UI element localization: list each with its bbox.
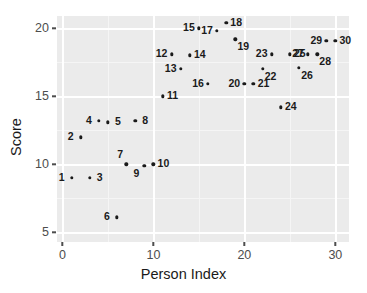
- gridline-minor-horizontal: [57, 130, 349, 131]
- x-axis-title: Person Index: [0, 266, 367, 282]
- data-point-label: 3: [97, 172, 103, 183]
- data-point-label: 11: [167, 90, 178, 101]
- x-axis-tick-mark: [153, 242, 154, 246]
- y-axis-tick-label: 20: [35, 21, 49, 35]
- data-point-label: 9: [133, 168, 139, 179]
- y-axis-tick-mark: [52, 164, 56, 165]
- data-point-label: 10: [158, 158, 170, 169]
- gridline-minor-vertical: [290, 16, 291, 242]
- data-point-label: 26: [301, 69, 313, 80]
- data-point-label: 19: [237, 41, 249, 52]
- data-point-label: 1: [59, 172, 65, 183]
- gridline-minor-vertical: [108, 16, 109, 242]
- gridline-minor-horizontal: [57, 198, 349, 199]
- gridline-major-vertical: [153, 16, 154, 242]
- data-point-label: 27: [292, 48, 304, 59]
- x-axis-tick-mark: [62, 242, 63, 246]
- y-axis-tick-label: 15: [35, 89, 49, 103]
- gridline-major-horizontal: [57, 164, 349, 165]
- data-point-label: 23: [256, 48, 268, 59]
- gridline-major-vertical: [62, 16, 63, 242]
- data-point-label: 7: [117, 149, 123, 160]
- y-axis-tick-label: 10: [35, 157, 49, 171]
- data-point-label: 16: [192, 78, 204, 89]
- gridline-major-horizontal: [57, 232, 349, 233]
- x-axis-tick-label: 20: [237, 248, 251, 262]
- data-point-label: 5: [115, 116, 121, 127]
- y-axis-tick-labels: 5101520: [24, 0, 49, 293]
- data-point-label: 13: [165, 63, 177, 74]
- data-point-label: 29: [310, 34, 322, 45]
- data-point-label: 24: [285, 101, 297, 112]
- y-axis-tick-label: 5: [42, 225, 49, 239]
- gridline-major-horizontal: [57, 96, 349, 97]
- data-point-label: 15: [183, 22, 195, 33]
- gridline-major-vertical: [335, 16, 336, 242]
- data-point-label: 8: [142, 115, 148, 126]
- y-axis-tick-mark: [52, 96, 56, 97]
- data-point-label: 20: [229, 78, 241, 89]
- gridline-minor-horizontal: [57, 62, 349, 63]
- data-point-label: 18: [230, 17, 242, 28]
- x-axis-tick-label: 30: [328, 248, 342, 262]
- x-axis-tick-mark: [244, 242, 245, 246]
- y-axis-tick-mark: [52, 28, 56, 29]
- x-axis-tick-mark: [335, 242, 336, 246]
- x-axis-tick-label: 10: [146, 248, 160, 262]
- x-axis-tick-label: 0: [59, 248, 66, 262]
- data-point-label: 28: [319, 56, 331, 67]
- data-point-label: 17: [201, 25, 213, 36]
- data-point-label: 30: [340, 34, 352, 45]
- y-axis-tick-mark: [52, 232, 56, 233]
- scatter-plot: 1234567891011121314151617181920212223242…: [0, 0, 367, 293]
- y-axis-title: Score: [8, 87, 24, 187]
- data-point-label: 12: [156, 48, 168, 59]
- data-point-label: 2: [68, 131, 74, 142]
- data-point-label: 4: [86, 115, 92, 126]
- data-point-label: 22: [265, 71, 277, 82]
- data-point-label: 14: [194, 49, 206, 60]
- data-point-label: 6: [104, 211, 110, 222]
